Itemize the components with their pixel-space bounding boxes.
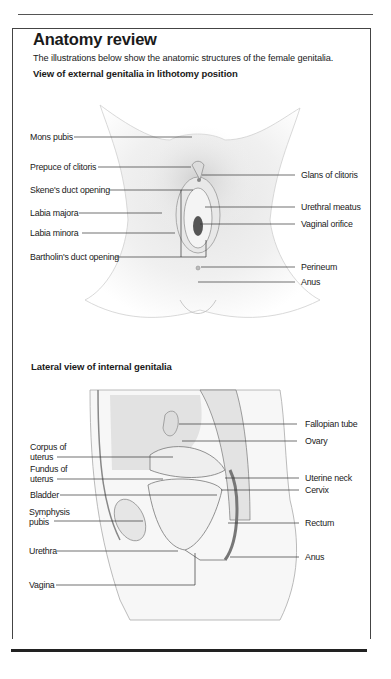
label-perineum: Perineum xyxy=(301,262,337,272)
label-bladder: Bladder xyxy=(30,490,59,500)
label-glans-of-clitoris: Glans of clitoris xyxy=(301,170,358,180)
label-labia-minora: Labia minora xyxy=(30,228,78,238)
label-corpus-of-uterus: Corpus of uterus xyxy=(30,442,66,462)
anatomy-illustrations xyxy=(0,0,391,679)
label-labia-majora: Labia majora xyxy=(30,208,78,218)
label-vaginal-orifice: Vaginal orifice xyxy=(301,219,353,229)
label-fundus-of-uterus: Fundus of uterus xyxy=(30,464,67,484)
label-vagina: Vagina xyxy=(29,580,55,590)
label-uterine-neck: Uterine neck xyxy=(305,473,352,483)
label-bartholins-duct-opening: Bartholin's duct opening xyxy=(30,252,119,262)
label-symphysis-pubis: Symphysis pubis xyxy=(29,507,70,527)
internal-view-heading: Lateral view of internal genitalia xyxy=(31,361,172,372)
label-ovary: Ovary xyxy=(305,436,327,446)
label-cervix: Cervix xyxy=(305,485,329,495)
label-anus-internal: Anus xyxy=(305,552,324,562)
label-prepuce-of-clitoris: Prepuce of clitoris xyxy=(30,162,96,172)
label-urethral-meatus: Urethral meatus xyxy=(301,202,361,212)
label-anus-external: Anus xyxy=(301,277,320,287)
label-skenes-duct-opening: Skene's duct opening xyxy=(30,185,110,195)
label-fallopian-tube: Fallopian tube xyxy=(305,419,357,429)
label-rectum: Rectum xyxy=(305,518,334,528)
label-mons-pubis: Mons pubis xyxy=(30,132,73,142)
internal-genitalia-illustration xyxy=(90,390,297,620)
label-urethra: Urethra xyxy=(29,546,57,556)
